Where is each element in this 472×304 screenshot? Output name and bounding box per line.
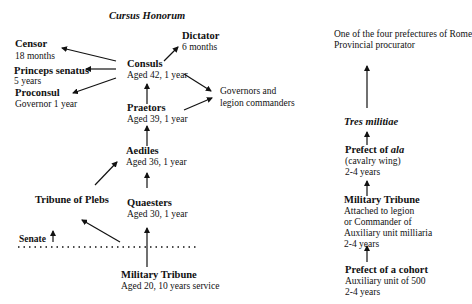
praetors-detail: Aged 39, 1 year [127,115,188,125]
arrow-consuls-dictator [164,47,178,61]
military-tribune-detail: Aged 20, 10 years service [121,282,219,292]
praetors-label: Praetors [127,103,165,114]
arrow-consuls-censor [62,48,116,61]
senate-label: Senate [19,235,46,245]
princeps-label: Princeps senatus [14,66,89,77]
consuls-label: Consuls [127,59,163,70]
arrow-praetors-governors [184,98,212,110]
consuls-detail: Aged 42, 1 year [127,71,188,81]
dictator-label: Dictator [182,31,219,42]
top-line2: Provincial procurator [334,41,415,51]
arrow-consuls-proconsul [73,78,116,93]
prefect-ala-label: Prefect of ala [345,145,404,156]
diagram-title: Cursus Honorum [109,11,185,22]
censor-label: Censor [15,39,47,50]
proconsul-detail: Governor 1 year [15,100,77,110]
right-military-tribune-label: Military Tribune [344,195,420,206]
arrow-tribune-aediles [95,162,117,185]
censor-detail: 18 months [15,52,55,62]
right-military-tribune-line3: Auxiliary unit milliaria [344,229,432,239]
proconsul-label: Proconsul [15,88,60,99]
top-line1: One of the four prefectures of Rome [334,30,472,40]
quaesters-label: Quaesters [127,198,172,209]
quaesters-detail: Aged 30, 1 year [127,210,188,220]
arrow-military-tribune-plebs [82,220,120,242]
right-military-tribune-line4: 2-4 years [344,240,379,250]
princeps-detail: 5 years [14,77,41,87]
dictator-detail: 6 months [182,43,217,53]
governors-line1: Governors and [220,87,276,97]
prefect-cohort-label: Prefect of a cohort [345,265,428,276]
right-military-tribune-line1: Attached to legion [344,207,414,217]
arrow-consuls-governors [184,74,211,91]
prefect-ala-line1: (cavalry wing) [345,157,401,167]
military-tribune-label: Military Tribune [121,270,197,281]
governors-line2: legion commanders [220,99,295,109]
aediles-detail: Aged 36, 1 year [126,158,187,168]
tribune-plebs-label: Tribune of Plebs [35,195,109,206]
prefect-ala-line2: 2-4 years [345,168,380,178]
prefect-cohort-line2: 2-4 years [345,288,380,298]
prefect-cohort-line1: Auxiliary unit of 500 [345,277,425,287]
right-military-tribune-line2: or Commander of [344,218,412,228]
tres-militiae-label: Tres militiae [344,117,398,128]
aediles-label: Aediles [126,146,159,157]
